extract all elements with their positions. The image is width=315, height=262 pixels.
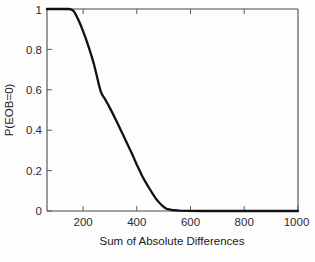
y-ticklabel-0.6: 0.6 — [26, 84, 42, 96]
x-axis-title: Sum of Absolute Differences — [100, 235, 245, 247]
y-ticklabels: 0 0.2 0.4 0.6 0.8 1 — [26, 4, 43, 218]
x-ticklabel-600: 600 — [181, 216, 200, 228]
x-ticklabel-1000: 1000 — [284, 216, 310, 228]
x-ticklabels: 200 400 600 800 1000 — [74, 216, 310, 228]
x-ticklabel-200: 200 — [74, 216, 93, 228]
y-ticklabel-0.4: 0.4 — [26, 124, 43, 136]
y-axis-title: P(EOB=0) — [3, 83, 15, 136]
plot-frame — [47, 9, 298, 211]
chart-svg: 200 400 600 800 1000 0 0.2 0.4 0.6 0.8 1… — [0, 0, 315, 262]
y-ticklabel-0.8: 0.8 — [26, 44, 42, 56]
data-curve-p-eob-zero — [47, 9, 298, 211]
y-ticklabel-1: 1 — [36, 4, 42, 16]
figure-canvas: 200 400 600 800 1000 0 0.2 0.4 0.6 0.8 1… — [0, 0, 315, 262]
x-tickmarks — [83, 9, 298, 211]
x-ticklabel-400: 400 — [127, 216, 146, 228]
x-ticklabel-800: 800 — [235, 216, 254, 228]
y-ticklabel-0.2: 0.2 — [26, 165, 42, 177]
y-ticklabel-0: 0 — [36, 205, 42, 217]
y-tickmarks — [47, 9, 52, 211]
